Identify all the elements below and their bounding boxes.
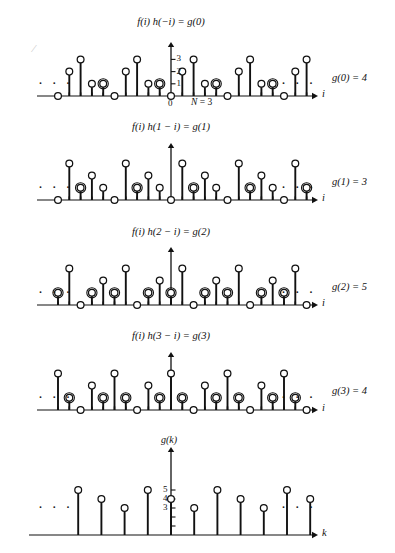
x-axis-label-g1: i — [322, 192, 325, 203]
stem-marker — [292, 265, 299, 272]
stem-marker — [213, 184, 220, 191]
stem-marker — [269, 80, 276, 87]
stem-marker — [213, 394, 220, 401]
stem-marker — [100, 277, 107, 284]
stem-marker-gk — [121, 505, 128, 512]
left-ellipsis-gk: · · · — [38, 500, 73, 515]
stem-marker — [145, 80, 152, 87]
stem-marker-gk — [191, 505, 198, 512]
stem-marker — [145, 382, 152, 389]
stem-marker — [190, 56, 197, 63]
stem-marker — [235, 160, 242, 167]
left-ellipsis-g0: · · · — [38, 76, 73, 91]
stem-marker — [100, 184, 107, 191]
stem-marker — [179, 265, 186, 272]
x-axis-arrow-g1 — [312, 197, 318, 203]
stem-marker-gk — [168, 496, 175, 503]
panel-title-g1: f(i) h(1 − i) = g(1) — [0, 121, 342, 132]
stem-marker-gk — [260, 505, 267, 512]
stem-marker — [258, 80, 265, 87]
stem-marker — [224, 370, 231, 377]
right-ellipsis-gk: · · · — [281, 500, 316, 515]
right-ellipsis-g0: · · · — [281, 76, 316, 91]
stem-marker — [258, 172, 265, 179]
stem-marker — [281, 370, 288, 377]
panel-result-g3: g(3) = 4 — [332, 385, 367, 396]
stem-marker — [55, 370, 62, 377]
stem-marker — [168, 289, 175, 296]
stem-marker — [224, 93, 231, 100]
y-tick-label-g0-2: 2 — [177, 66, 182, 76]
stem-marker — [190, 407, 197, 414]
x-axis-label-gk: k — [322, 527, 327, 538]
stem-marker-gk — [214, 487, 221, 494]
panel-result-g2: g(2) = 5 — [332, 281, 367, 292]
left-ellipsis-g1: · · · — [38, 180, 73, 195]
stem-marker — [224, 197, 231, 204]
stem-marker — [213, 277, 220, 284]
x-axis-label-g0: i — [322, 88, 325, 99]
stem-marker — [111, 197, 118, 204]
stem-marker — [134, 56, 141, 63]
stem-marker — [89, 80, 96, 87]
stem-marker — [190, 184, 197, 191]
stem-marker — [77, 56, 84, 63]
x-axis-arrow-g3 — [312, 407, 318, 413]
y-axis-arrow-g2 — [168, 247, 174, 252]
stem-marker — [66, 68, 73, 75]
stem-marker — [122, 68, 129, 75]
y-tick-label-g0-3: 3 — [177, 53, 182, 63]
stem-marker — [269, 184, 276, 191]
stem-marker — [235, 68, 242, 75]
stem-marker — [134, 184, 141, 191]
stem-marker — [55, 197, 62, 204]
stem-marker-gk — [98, 496, 105, 503]
stem-marker — [156, 184, 163, 191]
stem-marker — [281, 197, 288, 204]
stem-marker — [168, 370, 175, 377]
stem-marker-gk — [144, 487, 151, 494]
left-ellipsis-g2: · · · — [38, 285, 73, 300]
stem-marker — [168, 197, 175, 204]
stem-marker — [122, 265, 129, 272]
left-ellipsis-g3: · · · — [38, 390, 73, 405]
panel-result-g0: g(0) = 4 — [332, 72, 367, 83]
stem-marker — [179, 394, 186, 401]
stem-marker — [179, 160, 186, 167]
stem-marker — [122, 160, 129, 167]
panel-title-g3: f(i) h(3 − i) = g(3) — [0, 330, 342, 341]
stem-marker — [258, 289, 265, 296]
stem-marker — [292, 160, 299, 167]
right-ellipsis-g2: · · · — [281, 285, 316, 300]
stem-marker — [66, 160, 73, 167]
stem-marker — [111, 93, 118, 100]
stem-marker — [202, 80, 209, 87]
x-axis-arrow-g0 — [312, 93, 318, 99]
stem-marker — [156, 277, 163, 284]
x-axis-label-g2: i — [322, 297, 325, 308]
stem-marker-gk — [75, 487, 82, 494]
x-axis-arrow-gk — [312, 532, 318, 538]
stem-marker — [134, 302, 141, 309]
y-tick-label-g0-1: 1 — [177, 78, 182, 88]
y-axis-arrow-g0 — [168, 42, 174, 47]
origin-label: 0 — [168, 98, 173, 108]
stem-marker — [247, 302, 254, 309]
stem-marker — [145, 289, 152, 296]
y-tick-label-gk-3: 3 — [163, 502, 168, 512]
stem-marker — [66, 265, 73, 272]
y-tick-label-gk-5: 5 — [163, 484, 168, 494]
stem-marker — [77, 302, 84, 309]
stem-marker — [202, 289, 209, 296]
stem-marker — [303, 407, 310, 414]
y-axis-arrow-g1 — [168, 143, 174, 148]
stem-marker — [89, 382, 96, 389]
y-tick-label-gk-4: 4 — [163, 493, 168, 503]
stem-marker — [77, 407, 84, 414]
stem-marker — [258, 382, 265, 389]
convolution-figure: ⁄ 123f(i) h(−i) = g(0)g(0) = 4· · ·· · ·… — [0, 0, 395, 553]
y-axis-label-gk: g(k) — [161, 434, 177, 445]
stem-marker — [190, 302, 197, 309]
panel-title-g2: f(i) h(2 − i) = g(2) — [0, 226, 342, 237]
period-label: N = 3 — [191, 97, 212, 107]
